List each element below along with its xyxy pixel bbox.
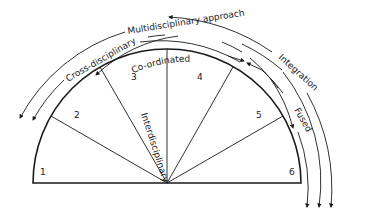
svg-text:Cross-disciplinary: Cross-disciplinary — [64, 35, 138, 84]
svg-text:Fused: Fused — [292, 106, 314, 134]
co-ordinated-label: Co-ordinated — [130, 54, 190, 75]
segment-number-5: 5 — [256, 110, 262, 120]
multidisciplinary-label: Multidisciplinary approach — [127, 8, 245, 36]
integration-arc — [169, 17, 332, 207]
segment-number-2: 2 — [74, 110, 80, 120]
segment-number-1: 1 — [40, 167, 46, 177]
interdisciplinary-label: Interdisciplinary — [139, 112, 171, 184]
svg-text:Multidisciplinary approach: Multidisciplinary approach — [127, 8, 245, 36]
segment-number-6: 6 — [289, 167, 295, 177]
multidisciplinary-arc — [20, 32, 282, 118]
interdisciplinary-spectrum-diagram: 1 2 3 4 5 6 Interdisciplinary Co-ordinat… — [0, 0, 369, 218]
segment-numbers: 1 2 3 4 5 6 — [40, 72, 295, 177]
fused-label: Fused — [292, 106, 314, 134]
cross-disciplinary-label: Cross-disciplinary — [64, 35, 138, 84]
segment-number-4: 4 — [197, 72, 203, 82]
svg-text:Co-ordinated: Co-ordinated — [130, 54, 190, 75]
